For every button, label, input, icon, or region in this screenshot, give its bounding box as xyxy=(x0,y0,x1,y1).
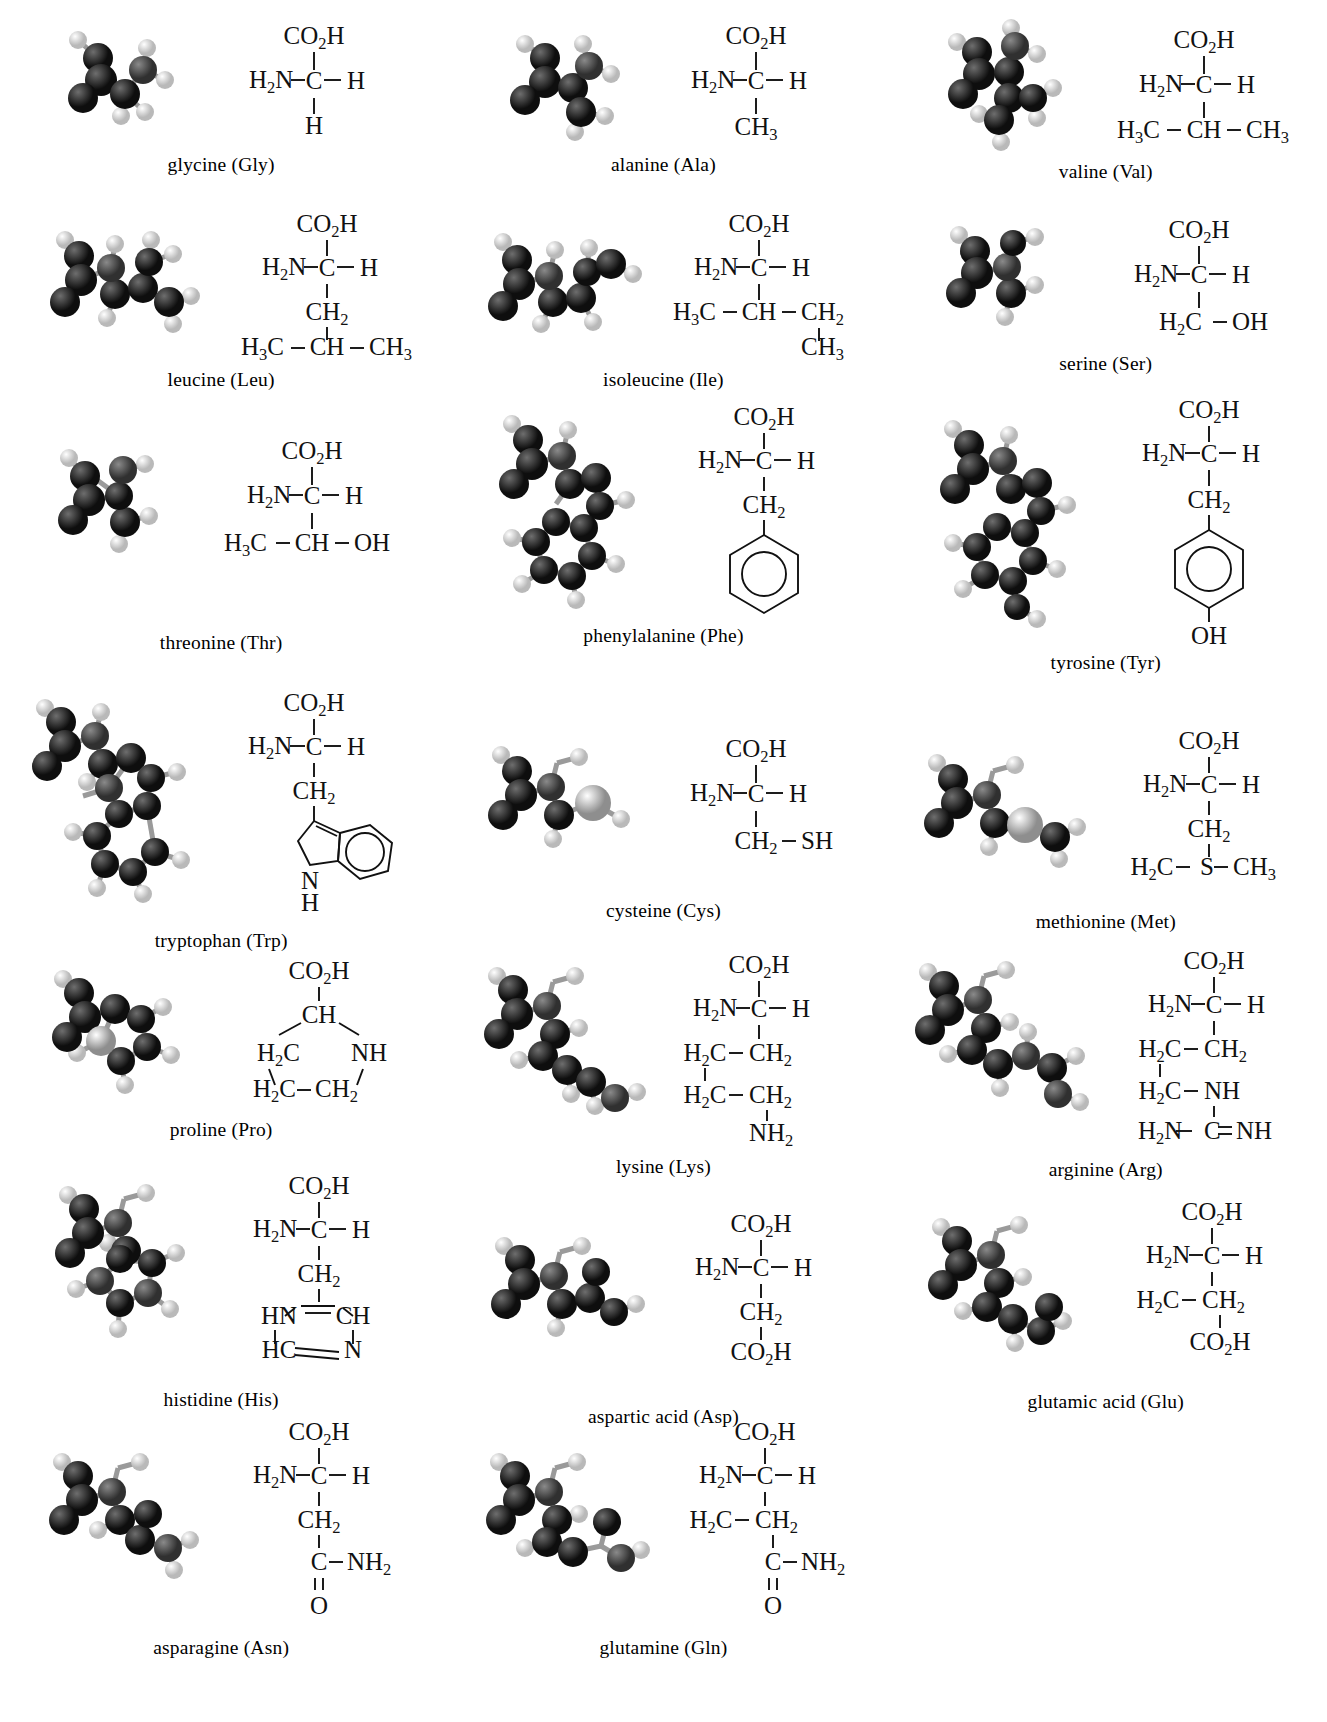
svg-text:H2N: H2N xyxy=(1138,1117,1182,1148)
amino-acid-cell-histidine: CO2H H2N C H CH2 HN CH HC N histidine (H… xyxy=(0,1160,442,1390)
svg-text:H2N: H2N xyxy=(690,779,734,810)
amino-acid-cell-asparagine: CO2H H2N C H CH2 C NH2 O asparagine (Asn… xyxy=(0,1390,442,1620)
caption-leucine: leucine (Leu) xyxy=(0,369,442,391)
svg-text:H2N: H2N xyxy=(1143,770,1187,801)
svg-text:C: C xyxy=(1206,991,1223,1018)
svg-text:H: H xyxy=(1247,991,1265,1018)
structural-formula-tryptophan: CO2H H2N C H CH2 N H xyxy=(242,689,422,904)
svg-text:C: C xyxy=(1203,1242,1220,1269)
structural-formula-phenylalanine: CO2H H2N C H CH2 xyxy=(676,403,846,613)
svg-text:NH2: NH2 xyxy=(347,1548,391,1579)
svg-text:NH: NH xyxy=(1204,1077,1240,1104)
svg-text:C: C xyxy=(748,67,765,94)
svg-text:OH: OH xyxy=(354,529,390,556)
structural-formula-lysine: CO2H H2N C H H2C CH2 H2C CH2 NH2 xyxy=(671,951,851,1126)
structural-formula-cysteine: CO2H H2N C H CH2 SH xyxy=(664,731,854,856)
svg-text:H: H xyxy=(1232,261,1250,288)
svg-text:C: C xyxy=(305,733,322,760)
svg-text:H2N: H2N xyxy=(262,253,306,284)
svg-text:C: C xyxy=(306,67,323,94)
structural-formula-arginine: CO2H H2N C H H2C CH2 H2C NH H2N C NH xyxy=(1116,947,1301,1127)
svg-text:H2C: H2C xyxy=(689,1506,732,1537)
svg-text:H2N: H2N xyxy=(253,1215,297,1246)
svg-text:CH2: CH2 xyxy=(739,1298,782,1329)
svg-text:H: H xyxy=(347,733,365,760)
svg-text:H2C: H2C xyxy=(1130,853,1173,884)
svg-text:H: H xyxy=(797,447,815,474)
svg-text:H2N: H2N xyxy=(253,1461,297,1492)
svg-text:C: C xyxy=(310,1216,327,1243)
molecular-model-arginine xyxy=(910,952,1110,1122)
svg-text:H2N: H2N xyxy=(1139,70,1183,101)
svg-text:O: O xyxy=(764,1592,782,1619)
amino-acid-cell-glutamine: CO2H H2N C H H2C CH2 C NH2 O glutamine (… xyxy=(442,1390,884,1620)
structural-formula-threonine: CO2H H2N C H H3C CH OH xyxy=(214,433,409,558)
molecular-model-isoleucine xyxy=(475,218,665,348)
svg-text:CO2H: CO2H xyxy=(729,951,790,982)
svg-text:NH: NH xyxy=(351,1039,387,1066)
svg-text:CO2H: CO2H xyxy=(734,403,795,434)
svg-text:C: C xyxy=(310,1462,327,1489)
svg-text:CH2: CH2 xyxy=(755,1506,798,1537)
svg-text:H: H xyxy=(1242,440,1260,467)
svg-text:H: H xyxy=(798,1462,816,1489)
svg-text:CO2H: CO2H xyxy=(1178,396,1239,427)
svg-text:H: H xyxy=(792,254,810,281)
svg-text:H: H xyxy=(352,1462,370,1489)
svg-text:CH2: CH2 xyxy=(1187,486,1230,517)
amino-acid-cell-cysteine: CO2H H2N C H CH2 SH cysteine (Cys) xyxy=(442,687,884,935)
svg-text:C: C xyxy=(757,1462,774,1489)
svg-text:C: C xyxy=(748,780,765,807)
svg-text:CH2: CH2 xyxy=(1187,815,1230,846)
svg-text:CH: CH xyxy=(742,298,777,325)
svg-text:S: S xyxy=(1200,853,1214,880)
structural-formula-valine: CO2H H2N C H H3C CH CH3 xyxy=(1109,22,1289,142)
structural-formula-isoleucine: CO2H H2N C H H3C CH CH2 CH3 xyxy=(671,210,851,355)
svg-text:H2N: H2N xyxy=(1142,439,1186,470)
svg-text:H: H xyxy=(789,67,807,94)
svg-text:H2N: H2N xyxy=(695,1253,739,1284)
amino-acid-cell-isoleucine: CO2H H2N C H H3C CH CH2 CH3 isoleucine (… xyxy=(442,196,884,392)
svg-text:H2N: H2N xyxy=(248,732,292,763)
svg-text:H2N: H2N xyxy=(698,446,742,477)
svg-text:C: C xyxy=(751,995,768,1022)
structural-formula-proline: CO2H CH H2C NH H2C CH2 xyxy=(227,957,402,1097)
svg-text:H2C: H2C xyxy=(1139,1035,1182,1066)
svg-text:CH3: CH3 xyxy=(1246,116,1289,147)
svg-text:C: C xyxy=(310,1548,327,1575)
molecular-model-cysteine xyxy=(473,731,658,856)
svg-text:O: O xyxy=(310,1592,328,1619)
molecular-model-phenylalanine xyxy=(480,400,670,615)
molecular-model-aspartic-acid xyxy=(478,1220,663,1350)
caption-tyrosine: tyrosine (Tyr) xyxy=(885,652,1327,674)
structural-formula-glutamic-acid: CO2H H2N C H H2C CH2 CO2H xyxy=(1114,1198,1299,1353)
svg-text:CH2: CH2 xyxy=(749,1039,792,1070)
caption-serine: serine (Ser) xyxy=(885,353,1327,375)
caption-phenylalanine: phenylalanine (Phe) xyxy=(442,625,884,647)
caption-valine: valine (Val) xyxy=(885,161,1327,183)
amino-acid-cell-lysine: CO2H H2N C H H2C CH2 H2C CH2 NH2 lysine … xyxy=(442,935,884,1160)
svg-text:CH2: CH2 xyxy=(743,491,786,522)
molecular-model-glutamic-acid xyxy=(913,1203,1108,1348)
svg-text:CO2H: CO2H xyxy=(1184,947,1245,978)
amino-acid-cell-valine: CO2H H2N C H H3C CH CH3 valine (Val) xyxy=(885,0,1327,196)
svg-text:H2N: H2N xyxy=(693,994,737,1025)
svg-text:H2N: H2N xyxy=(247,481,291,512)
svg-text:HN: HN xyxy=(261,1302,297,1329)
svg-text:H3C: H3C xyxy=(673,298,716,329)
svg-text:H2N: H2N xyxy=(1148,990,1192,1021)
svg-text:CH: CH xyxy=(1186,116,1221,143)
svg-text:H: H xyxy=(305,112,323,139)
molecular-model-methionine xyxy=(913,737,1108,867)
svg-text:H2N: H2N xyxy=(699,1461,743,1492)
caption-glutamine: glutamine (Gln) xyxy=(442,1637,884,1659)
svg-text:H: H xyxy=(789,780,807,807)
molecular-model-tryptophan xyxy=(21,692,236,902)
svg-text:CO2H: CO2H xyxy=(734,1418,795,1449)
amino-acid-cell-tryptophan: CO2H H2N C H CH2 N H tryptophan (Trp) xyxy=(0,687,442,935)
svg-text:CH3: CH3 xyxy=(1233,853,1276,884)
svg-text:C: C xyxy=(1204,1117,1221,1144)
svg-text:NH: NH xyxy=(1236,1117,1272,1144)
svg-text:CH2: CH2 xyxy=(305,298,348,329)
svg-text:C: C xyxy=(318,254,335,281)
